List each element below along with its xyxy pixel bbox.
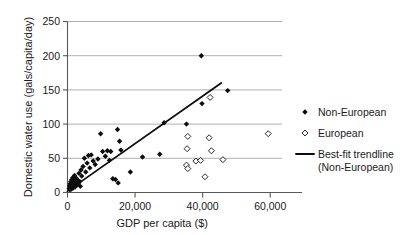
data-point-non-european-48 [117,139,122,144]
y-tick-label-200: 200 [42,50,60,62]
x-tick-label-60000: 60,000 [254,200,286,212]
y-tick-label-0: 0 [54,186,60,198]
scatter-plot-svg: 050100150200250020,00040,00060,000Domest… [0,0,410,235]
data-point-european-11 [265,131,271,137]
x-tick-label-40000: 40,000 [187,200,219,212]
data-point-european-10 [220,157,226,163]
data-point-non-european-46 [115,127,120,132]
legend-marker-european [302,130,308,136]
y-tick-label-50: 50 [48,152,60,164]
data-point-non-european-39 [100,149,105,154]
data-point-european-1 [184,146,190,152]
legend-label-non-european: Non-European [318,106,386,118]
data-point-non-european-55 [199,53,204,58]
data-point-non-european-30 [83,169,88,174]
data-point-non-european-29 [82,156,87,161]
chart-figure: 050100150200250020,00040,00060,000Domest… [0,0,410,235]
legend-label-trendline-2: (Non-European) [318,161,393,173]
data-point-european-6 [202,174,208,180]
y-tick-label-100: 100 [42,118,60,130]
data-point-european-0 [185,133,191,139]
data-point-european-8 [208,148,214,154]
legend-marker-non-european [302,109,307,114]
data-point-non-european-31 [84,160,89,165]
y-tick-label-150: 150 [42,84,60,96]
x-tick-label-20000: 20,000 [119,200,151,212]
y-tick-label-250: 250 [42,15,60,27]
best-fit-trendline [68,83,222,191]
data-point-european-7 [206,135,212,141]
data-point-non-european-57 [225,88,230,93]
legend-label-trendline: Best-fit trendline [318,148,394,160]
y-axis-title-text: Domestic water use (gals/capita/day) [22,17,34,197]
data-point-non-european-33 [87,165,92,170]
data-point-non-european-50 [128,169,133,174]
data-point-european-9 [207,94,213,100]
data-point-non-european-54 [184,121,189,126]
data-point-non-european-56 [199,101,204,106]
legend-label-european: European [318,127,364,139]
data-point-non-european-37 [95,156,100,161]
data-point-non-european-52 [157,151,162,156]
x-tick-label-0: 0 [65,200,71,212]
data-point-non-european-51 [140,154,145,159]
x-axis-title-text: GDP per capita ($) [116,217,208,229]
data-point-non-european-38 [98,131,103,136]
